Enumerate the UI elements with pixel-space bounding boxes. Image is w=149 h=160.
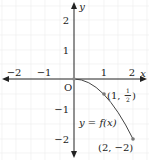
point-1-minus-half	[102, 92, 106, 96]
y-tick-minus-2: −2	[54, 134, 69, 145]
point1-frac-den: 2	[126, 96, 130, 103]
point1-frac-num: 1	[126, 87, 130, 94]
y-axis-down-arrow-icon	[71, 151, 77, 158]
x-tick-2: 2	[129, 67, 135, 78]
x-axis-label: x	[140, 68, 146, 79]
point1-close-paren: )	[132, 90, 136, 101]
y-tick-minus-1: −1	[54, 104, 69, 115]
function-graph: −2 −1 1 2 x 2 1 −1 −2 y O (1, − 1 2 ) y …	[0, 0, 149, 160]
x-tick-minus-1: −1	[37, 67, 52, 78]
point-2-minus-2	[131, 137, 135, 141]
y-tick-2: 2	[63, 15, 69, 26]
y-axis-label: y	[78, 1, 85, 12]
y-tick-1: 1	[63, 45, 69, 56]
point-origin	[72, 77, 76, 81]
origin-label: O	[64, 82, 72, 93]
curve-label: y = f(x)	[78, 117, 117, 128]
x-tick-1: 1	[101, 67, 107, 78]
x-tick-minus-2: −2	[7, 67, 22, 78]
point2-label: (2, −2)	[98, 142, 133, 153]
y-axis-up-arrow-icon	[71, 2, 77, 9]
